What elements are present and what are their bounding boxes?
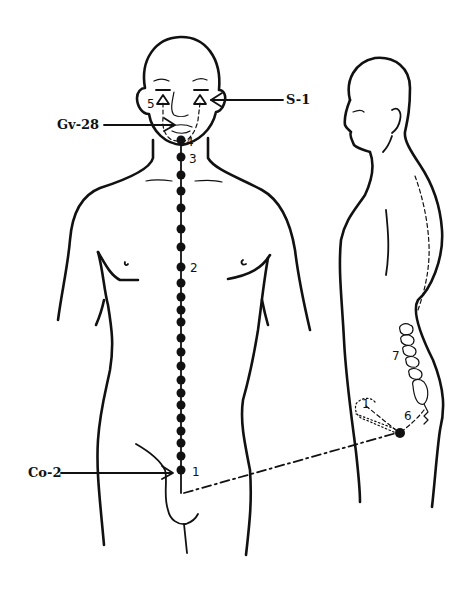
side-eye: [353, 111, 364, 113]
right-pectoral: [228, 255, 270, 279]
meridian-diagram: [0, 0, 472, 593]
front-right-torso-side: [242, 258, 268, 555]
right-eyebrow: [193, 79, 207, 81]
right-collarbone: [195, 180, 222, 182]
side-ear: [383, 109, 401, 152]
left-nipple: [125, 262, 128, 265]
label-co2: Co-2: [28, 466, 61, 479]
point-6-label: 6: [404, 410, 412, 422]
side-point-1-label: 1: [362, 398, 370, 410]
left-collarbone: [146, 180, 172, 181]
nose: [172, 92, 188, 117]
point-4-label: 4: [186, 136, 194, 148]
front-left-torso-side: [97, 252, 112, 545]
front-head-outline: [137, 37, 225, 145]
label-arrows: [61, 93, 283, 479]
label-gv28: Gv-28: [57, 118, 99, 131]
front-groin-outline: [136, 444, 198, 524]
point-5-label: 5: [147, 98, 155, 110]
front-right-neck-shoulder-arm: [208, 138, 310, 330]
left-arm-inner: [96, 300, 104, 325]
front-leg-line: [184, 524, 187, 553]
side-point-6-dot: [395, 428, 405, 438]
left-eyebrow: [154, 79, 169, 81]
side-back-outline: [349, 58, 443, 507]
point-3-label: 3: [189, 153, 197, 165]
right-arm-inner: [262, 300, 268, 325]
connector-dashdot-line: [184, 432, 400, 493]
right-nipple: [242, 260, 246, 265]
front-figure: [58, 37, 310, 555]
side-arm-line: [386, 210, 388, 275]
point-2-label: 2: [190, 262, 198, 274]
side-figure: [340, 58, 443, 507]
point-7-label: 7: [392, 350, 400, 362]
label-s1: S-1: [286, 93, 310, 106]
point-1-label: 1: [192, 466, 200, 478]
